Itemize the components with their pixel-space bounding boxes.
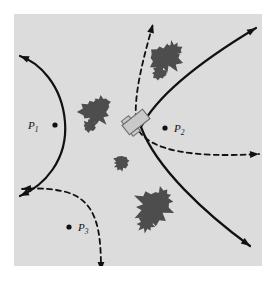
waypoint-dot-p3 — [66, 224, 71, 229]
figure-root: P1P2P3 — [0, 0, 273, 284]
waypoint-dot-p2 — [162, 125, 167, 130]
point-label-subscript: 3 — [85, 227, 89, 236]
arrowhead — [98, 262, 105, 271]
point-label-subscript: 2 — [181, 128, 185, 137]
point-label-p1: P1 — [28, 120, 38, 134]
waypoint-dot-p1 — [52, 122, 57, 127]
point-label-subscript: 1 — [35, 125, 39, 134]
scene-svg — [0, 0, 273, 284]
point-label-p3: P3 — [78, 222, 88, 236]
field-background — [14, 14, 262, 266]
point-label-letter: P — [78, 221, 85, 233]
point-label-letter: P — [174, 122, 181, 134]
point-label-p2: P2 — [174, 123, 184, 137]
point-label-letter: P — [28, 119, 35, 131]
